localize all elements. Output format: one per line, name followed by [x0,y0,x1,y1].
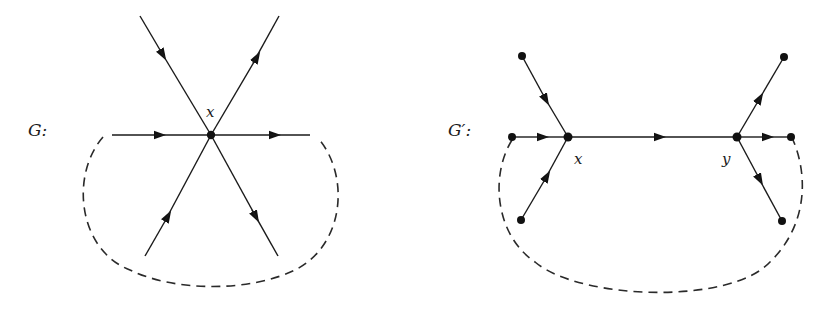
graph-g-dashed-boundary [83,137,338,287]
edge-bottomright [252,210,278,256]
graph-g-prime-dashed-boundary [499,140,802,292]
node-bottom-left [517,216,525,224]
graph-g-label: G: [28,120,47,140]
edge-tl-arrow-icon [522,56,546,100]
edge-br-arrow-icon [737,137,760,180]
graph-g-prime-edges [512,56,791,221]
vertex-x [564,133,573,142]
edge-topleft-arrow-icon [140,16,163,55]
edge-topleft [160,50,211,135]
diagram-canvas: G: x G′: [0,0,830,328]
edge-bl-arrow-icon [521,176,547,220]
edge-bottomleft-arrow-icon [145,216,168,256]
vertex-x-label: x [206,103,215,121]
node-top-right [780,53,788,61]
edge-tl [543,95,568,137]
vertex-y [733,133,742,142]
edge-bottomright-arrow-icon [211,135,256,217]
vertex-x [207,131,215,139]
edge-tr-arrow-icon [737,98,760,137]
node-bottom-right [778,217,786,225]
edge-topright [253,16,279,63]
node-top-left [518,52,526,60]
graph-g-prime: G′: [448,52,802,292]
edge-bl [544,137,568,181]
edge-tr [757,57,784,103]
edge-topright-arrow-icon [211,57,257,135]
vertex-x-label: x [574,150,583,168]
node-right [787,133,795,141]
graph-g-prime-label: G′: [448,120,471,140]
edge-bottomleft [165,135,211,221]
graph-g: G: x [28,16,338,287]
node-left [508,133,516,141]
vertex-y-label: y [721,150,731,168]
edge-br [757,175,782,221]
